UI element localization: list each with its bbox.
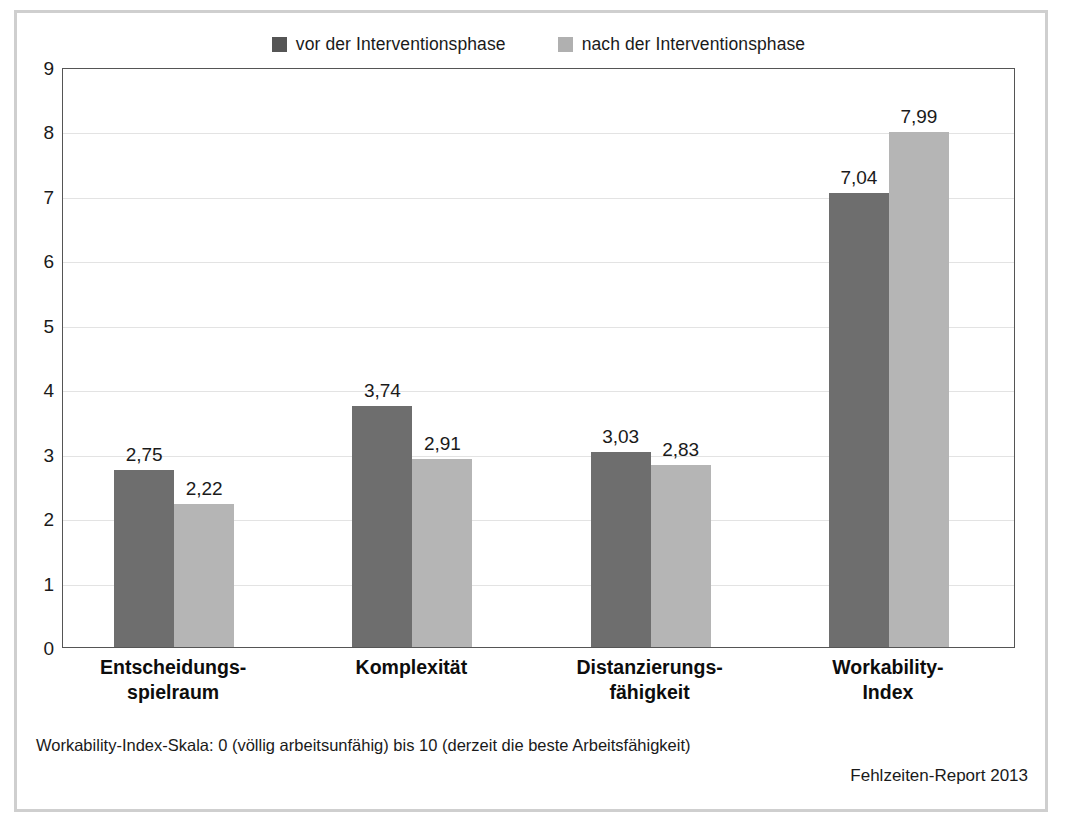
- bar-value-label: 2,83: [662, 440, 699, 459]
- bar-value-label: 2,91: [424, 434, 461, 453]
- legend-label: vor der Interventionsphase: [296, 34, 506, 55]
- bar[interactable]: 2,22: [174, 504, 234, 647]
- y-axis-tick-label: 5: [43, 316, 54, 335]
- plot-area: 2,752,223,742,913,032,837,047,99: [62, 68, 1015, 648]
- bar-group: 3,742,91: [301, 69, 539, 647]
- y-axis-tick-label: 6: [43, 252, 54, 271]
- legend-swatch-icon: [272, 37, 287, 52]
- bar[interactable]: 7,04: [829, 193, 889, 647]
- chart-footnote: Workability-Index-Skala: 0 (völlig arbei…: [36, 736, 691, 755]
- bars-layer: 2,752,223,742,913,032,837,047,99: [63, 69, 1014, 647]
- bar-value-label: 2,22: [186, 479, 223, 498]
- bar[interactable]: 2,83: [651, 465, 711, 647]
- legend-label: nach der Interventionsphase: [582, 34, 806, 55]
- category-label-line: Distanzierungs-: [531, 655, 769, 680]
- bar-value-label: 7,04: [840, 168, 877, 187]
- legend-swatch-icon: [558, 37, 573, 52]
- legend-item: vor der Interventionsphase: [272, 34, 506, 55]
- x-axis-category-label: Komplexität: [292, 655, 530, 680]
- x-axis-category-labels: Entscheidungs-spielraumKomplexitätDistan…: [62, 655, 1015, 725]
- category-label-line: fähigkeit: [531, 680, 769, 705]
- bar-value-label: 2,75: [126, 445, 163, 464]
- chart-figure: vor der Interventionsphasenach der Inter…: [0, 0, 1066, 827]
- category-label-line: Workability-: [769, 655, 1007, 680]
- x-axis-category-label: Workability-Index: [769, 655, 1007, 705]
- bar-group: 2,752,22: [63, 69, 301, 647]
- category-label-line: spielraum: [54, 680, 292, 705]
- y-axis-tick-label: 2: [43, 510, 54, 529]
- bar[interactable]: 3,74: [352, 406, 412, 647]
- legend-item: nach der Interventionsphase: [558, 34, 806, 55]
- y-axis-tick-label: 8: [43, 123, 54, 142]
- y-axis: 9876543210: [14, 68, 54, 648]
- x-axis-category-label: Distanzierungs-fähigkeit: [531, 655, 769, 705]
- y-axis-tick-label: 1: [43, 574, 54, 593]
- bar[interactable]: 2,75: [114, 470, 174, 647]
- x-axis-category-label: Entscheidungs-spielraum: [54, 655, 292, 705]
- bar[interactable]: 2,91: [412, 459, 472, 647]
- category-label-line: Index: [769, 680, 1007, 705]
- bar-group: 7,047,99: [778, 69, 1016, 647]
- category-label-line: Entscheidungs-: [54, 655, 292, 680]
- bar[interactable]: 3,03: [591, 452, 651, 647]
- bar[interactable]: 7,99: [889, 132, 949, 647]
- category-label-line: Komplexität: [292, 655, 530, 680]
- y-axis-tick-label: 0: [43, 639, 54, 658]
- bar-value-label: 3,74: [364, 381, 401, 400]
- bar-value-label: 3,03: [602, 427, 639, 446]
- chart-source: Fehlzeiten-Report 2013: [850, 766, 1028, 786]
- y-axis-tick-label: 9: [43, 59, 54, 78]
- y-axis-tick-label: 3: [43, 445, 54, 464]
- bar-value-label: 7,99: [900, 107, 937, 126]
- y-axis-tick-label: 4: [43, 381, 54, 400]
- y-axis-tick-label: 7: [43, 187, 54, 206]
- bar-group: 3,032,83: [540, 69, 778, 647]
- chart-legend: vor der Interventionsphasenach der Inter…: [62, 30, 1015, 58]
